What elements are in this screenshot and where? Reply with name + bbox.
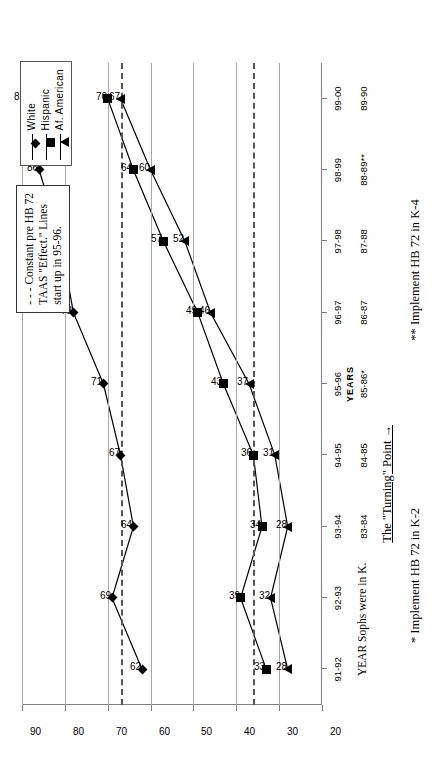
data-label: 34: [250, 520, 261, 530]
y-axis-tick: [236, 705, 237, 711]
y-axis-tick-label: 70: [89, 727, 127, 737]
y-axis-tick: [279, 705, 280, 711]
note-line-1: - - - Constant pre HB 72: [22, 193, 36, 305]
data-label: 67: [109, 92, 120, 102]
x-axis-tick-label-row2: 89-90: [358, 68, 369, 130]
note-line-3: start up in 95-96.: [50, 193, 64, 305]
data-label: 67: [109, 448, 120, 458]
reference-dashed-line: [121, 63, 123, 705]
x-axis-tick-label: 97-98: [332, 210, 343, 272]
x-axis-tick: [322, 240, 327, 241]
x-axis-tick: [322, 383, 327, 384]
data-label: 39: [229, 591, 240, 601]
x-axis-tick-label-row2: 85-86*: [358, 353, 369, 415]
data-label: 57: [151, 234, 162, 244]
footnote-1: * Implement HB 72 in K-2: [408, 508, 423, 643]
legend-item-af-american: Af. American: [53, 69, 67, 161]
legend: White Hispanic Af. American: [20, 61, 72, 167]
x-axis-tick: [322, 454, 327, 455]
y-axis-tick-label: 90: [3, 727, 41, 737]
x-axis-tick-label-row2: 87-88: [358, 210, 369, 272]
data-label: 32: [259, 591, 270, 601]
triangle-marker-icon: [54, 134, 66, 160]
series-line-af-american: [121, 99, 288, 670]
note-line-2: TAAS "Effect." Lines: [36, 193, 50, 305]
data-label: 69: [100, 591, 111, 601]
y-axis-tick-label: 60: [132, 727, 170, 737]
x-axis-tick: [322, 169, 327, 170]
reference-line-note: - - - Constant pre HB 72 TAAS "Effect." …: [16, 185, 70, 313]
y-axis-tick: [322, 705, 323, 711]
data-label: 70: [96, 92, 107, 102]
x-axis-tick-label: 93-94: [332, 496, 343, 558]
x-axis-tick-label: 91-92: [332, 638, 343, 700]
data-label: 28: [276, 662, 287, 672]
x-axis-tick: [322, 98, 327, 99]
data-label: 31: [263, 448, 274, 458]
x-axis-tick-label-row2: 84-85: [358, 424, 369, 486]
x-axis-tick-label-row2: 86-87: [358, 282, 369, 344]
x-axis-tick-label: 99-00: [332, 68, 343, 130]
x-axis-tick-label-row2: 88-89**: [358, 139, 369, 201]
turning-point-annotation: The "Turning" Point →: [380, 425, 395, 543]
gridline: [193, 63, 194, 705]
data-label: 33: [254, 662, 265, 672]
data-label: 52: [173, 234, 184, 244]
data-label: 64: [121, 163, 132, 173]
y-axis-tick-label: 20: [303, 727, 341, 737]
data-label: 46: [199, 306, 210, 316]
line-chart: 2030405060708090626964677178818689333934…: [0, 0, 435, 765]
data-label: 36: [241, 448, 252, 458]
legend-item-white: White: [25, 69, 39, 161]
data-label: 71: [91, 377, 102, 387]
y-axis-tick: [65, 705, 66, 711]
data-label: 49: [186, 306, 197, 316]
y-axis-tick-label: 50: [174, 727, 212, 737]
legend-label: Hispanic: [40, 89, 52, 131]
reference-dashed-line: [253, 63, 255, 705]
x-axis-tick: [322, 668, 327, 669]
data-label: 37: [237, 377, 248, 387]
x-axis-title: YEARS: [345, 366, 355, 402]
x-axis-tick-label: 92-93: [332, 567, 343, 629]
x-axis-tick-label: 94-95: [332, 424, 343, 486]
x-axis-tick: [322, 526, 327, 527]
rotated-chart-canvas: 2030405060708090626964677178818689333934…: [0, 0, 435, 765]
diamond-marker-icon: [26, 134, 38, 160]
gridline: [151, 63, 152, 705]
x-axis-row2-caption: YEAR Sophs were in K.: [356, 563, 368, 676]
legend-label: White: [26, 103, 38, 131]
data-label: 62: [130, 662, 141, 672]
y-axis-tick-label: 80: [46, 727, 84, 737]
legend-item-hispanic: Hispanic: [39, 69, 53, 161]
x-axis-tick-label-row2: 83-84: [358, 496, 369, 558]
square-marker-icon: [40, 134, 52, 160]
y-axis-tick-label: 40: [217, 727, 255, 737]
x-axis-tick: [322, 312, 327, 313]
gridline: [279, 63, 280, 705]
x-axis-tick: [322, 597, 327, 598]
x-axis-tick-label: 98-99: [332, 139, 343, 201]
y-axis-tick: [193, 705, 194, 711]
footnote-2: ** Implement HB 72 in K-4: [408, 199, 423, 340]
x-axis-tick-label: 95-96: [332, 353, 343, 415]
data-label: 28: [276, 520, 287, 530]
y-axis-tick: [151, 705, 152, 711]
y-axis-tick: [108, 705, 109, 711]
y-axis-tick-label: 30: [260, 727, 298, 737]
data-label: 60: [139, 163, 150, 173]
data-label: 64: [121, 520, 132, 530]
y-axis-tick: [22, 705, 23, 711]
x-axis-tick-label: 96-97: [332, 282, 343, 344]
data-label: 43: [211, 377, 222, 387]
legend-label: Af. American: [54, 69, 66, 131]
